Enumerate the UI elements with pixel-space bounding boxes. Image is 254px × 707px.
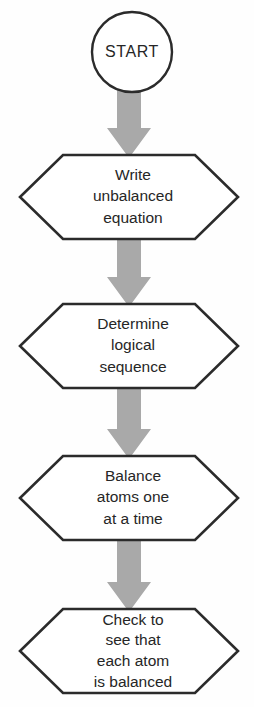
- node-step-1[interactable]: Write unbalanced equation: [20, 155, 238, 239]
- down-arrow-icon: [107, 389, 151, 459]
- step-2-label-line-1: Determine: [97, 315, 169, 332]
- step-1-label-line-1: Write: [115, 166, 151, 183]
- node-start[interactable]: START: [92, 12, 172, 92]
- step-1-label-line-3: equation: [103, 209, 162, 226]
- step-3-label-line-3: at a time: [103, 510, 162, 527]
- arrow-step3-to-step4: [107, 541, 151, 612]
- step-4-label-line-3: each atom: [97, 652, 169, 669]
- flowchart-canvas: START Write unbalanced equation Determin…: [0, 0, 254, 707]
- start-label: START: [105, 43, 159, 60]
- arrow-step2-to-step3: [107, 389, 151, 459]
- step-3-label-line-2: atoms one: [97, 488, 169, 505]
- step-4-label-line-4: is balanced: [94, 673, 172, 690]
- step-2-label-line-3: sequence: [99, 358, 166, 375]
- step-1-label-line-2: unbalanced: [93, 187, 173, 204]
- arrow-step1-to-step2: [107, 240, 151, 307]
- down-arrow-icon: [107, 90, 151, 158]
- node-step-4[interactable]: Check to see that each atom is balanced: [20, 609, 238, 693]
- down-arrow-icon: [107, 541, 151, 612]
- node-step-2[interactable]: Determine logical sequence: [20, 304, 238, 388]
- step-4-label-line-2: see that: [105, 631, 161, 648]
- step-3-label-line-1: Balance: [105, 467, 161, 484]
- arrow-start-to-step1: [107, 90, 151, 158]
- down-arrow-icon: [107, 240, 151, 307]
- step-2-label-line-2: logical: [111, 336, 155, 353]
- node-step-3[interactable]: Balance atoms one at a time: [20, 456, 238, 540]
- step-4-label-line-1: Check to: [102, 611, 163, 628]
- flowchart-svg: START Write unbalanced equation Determin…: [0, 0, 254, 707]
